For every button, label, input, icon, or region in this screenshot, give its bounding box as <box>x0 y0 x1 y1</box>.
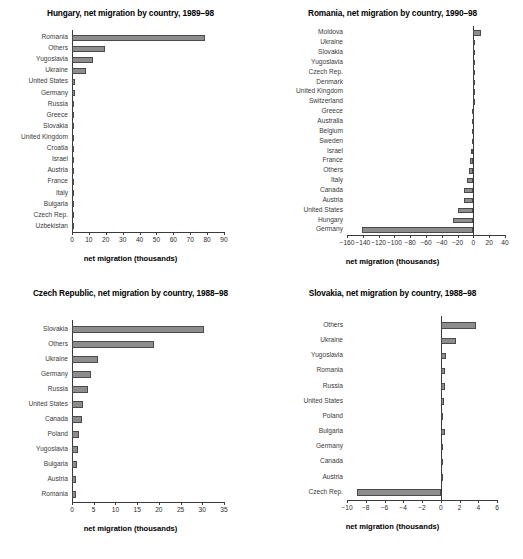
category-label: Slovakia <box>2 123 68 130</box>
bar <box>441 338 456 345</box>
bar <box>72 491 76 498</box>
x-axis-tick <box>137 502 138 505</box>
bar <box>72 146 74 152</box>
bar <box>473 50 475 55</box>
bar <box>357 489 441 496</box>
plot-area-czech-republic: SlovakiaOthersUkraineGermanyRussiaUnited… <box>72 322 224 502</box>
plot-area-hungary: RomaniaOthersYugoslaviaUkraineUnited Sta… <box>72 32 224 232</box>
category-label: Switzerland <box>264 98 343 105</box>
category-label: Germany <box>264 443 343 450</box>
category-label: Israel <box>264 148 343 155</box>
x-axis-tick <box>224 502 225 505</box>
x-axis-tick-label: 6 <box>483 505 511 512</box>
category-label: Poland <box>264 413 343 420</box>
x-axis-tick <box>489 235 490 238</box>
x-axis-tick-label: 90 <box>210 237 238 244</box>
bar <box>72 371 91 378</box>
bar <box>72 212 74 218</box>
category-label: Others <box>2 341 68 348</box>
x-axis-tick <box>156 232 157 235</box>
chart-title-hungary: Hungary, net migration by country, 1989–… <box>0 8 261 18</box>
x-axis-tick <box>426 235 427 238</box>
x-axis-tick-label: 40 <box>491 240 519 247</box>
bar <box>441 474 443 481</box>
category-label: France <box>264 157 343 164</box>
bar <box>72 57 93 63</box>
plot-area-romania: MoldovaUkraineSlovakiaYugoslaviaCzech Re… <box>347 28 505 235</box>
x-axis-tick <box>363 235 364 238</box>
category-label: Slovakia <box>264 49 343 56</box>
bar <box>441 413 443 420</box>
x-axis-caption: net migration (thousands) <box>262 257 523 266</box>
category-label: Australia <box>264 118 343 125</box>
category-label: Russia <box>2 386 68 393</box>
bar <box>72 90 75 96</box>
category-label: Yugoslavia <box>264 59 343 66</box>
category-label: Others <box>264 167 343 174</box>
category-label: Others <box>2 45 68 52</box>
category-label: Italy <box>2 190 68 197</box>
category-label: Ukraine <box>2 67 68 74</box>
x-axis-tick <box>181 502 182 505</box>
bar <box>441 368 446 375</box>
category-label: Sweden <box>264 138 343 145</box>
x-axis-tick <box>460 500 461 503</box>
bar <box>441 398 444 405</box>
category-label: Ukraine <box>264 39 343 46</box>
x-axis-tick <box>190 232 191 235</box>
bar <box>72 46 105 52</box>
category-label: United States <box>2 78 68 85</box>
category-label: Canada <box>264 187 343 194</box>
bar <box>72 326 204 333</box>
x-axis-tick <box>115 502 116 505</box>
x-axis-tick <box>202 502 203 505</box>
bar <box>72 416 82 423</box>
bar <box>470 158 473 163</box>
category-label: Bulgaria <box>264 428 343 435</box>
category-label: Yugoslavia <box>264 352 343 359</box>
category-label: Greece <box>264 108 343 115</box>
x-axis-tick <box>123 232 124 235</box>
x-axis-tick <box>72 232 73 235</box>
x-axis-tick <box>385 500 386 503</box>
bar <box>441 459 443 466</box>
x-axis-tick <box>442 235 443 238</box>
x-axis-tick <box>173 232 174 235</box>
bar <box>72 112 74 118</box>
category-label: Slovakia <box>2 326 68 333</box>
bar <box>72 356 98 363</box>
category-label: United States <box>2 401 68 408</box>
x-axis-caption: net migration (thousands) <box>262 522 523 531</box>
category-label: Romania <box>2 491 68 498</box>
x-axis-tick <box>106 232 107 235</box>
x-axis-tick-label: 35 <box>210 507 238 514</box>
bar <box>72 386 88 393</box>
bar <box>473 89 475 94</box>
bar <box>72 446 78 453</box>
bar <box>441 322 476 329</box>
x-axis-tick <box>140 232 141 235</box>
bar <box>472 109 474 114</box>
x-axis-line <box>72 502 224 503</box>
category-label: United States <box>264 398 343 405</box>
category-label: Others <box>264 322 343 329</box>
category-label: Poland <box>2 431 68 438</box>
x-axis-tick <box>505 235 506 238</box>
chart-title-slovakia: Slovakia, net migration by country, 1988… <box>262 288 523 298</box>
bar <box>72 157 74 163</box>
bar <box>72 68 86 74</box>
category-label: United Kingdom <box>2 134 68 141</box>
bar <box>441 383 445 390</box>
category-label: Denmark <box>264 79 343 86</box>
category-label: United States <box>264 207 343 214</box>
category-label: Austria <box>264 197 343 204</box>
bar <box>72 179 74 185</box>
category-label: Hungary <box>264 217 343 224</box>
x-axis-tick <box>89 232 90 235</box>
x-axis-tick <box>410 235 411 238</box>
category-label: Austria <box>2 167 68 174</box>
category-label: Russia <box>264 383 343 390</box>
x-axis-tick <box>347 235 348 238</box>
bar <box>473 30 480 35</box>
x-axis-tick <box>379 235 380 238</box>
